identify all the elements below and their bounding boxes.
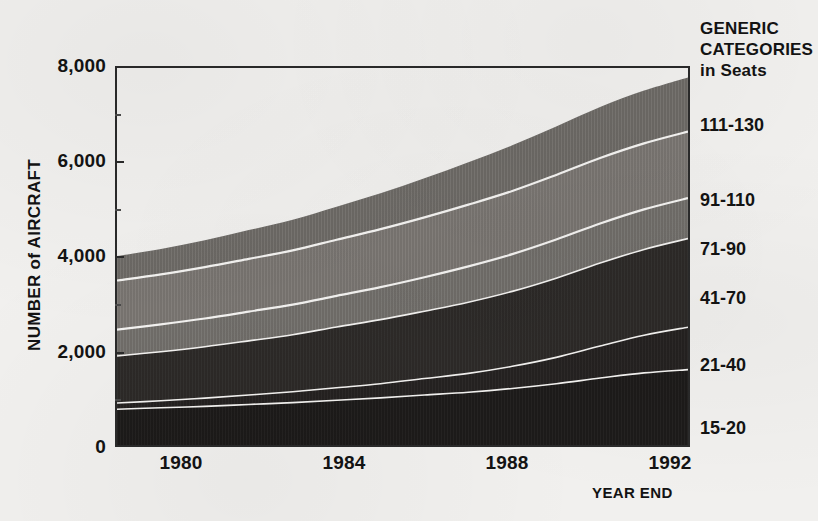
legend-entry-91-110: 91-110 — [700, 190, 755, 211]
y-axis-title: NUMBER of AIRCRAFT — [25, 125, 45, 385]
legend-entry-41-70: 41-70 — [700, 288, 746, 309]
legend-entry-111-130: 111-130 — [700, 115, 764, 136]
legend-entry-15-20: 15-20 — [700, 418, 746, 439]
band-texture — [117, 77, 688, 445]
x-axis-title: YEAR END — [592, 484, 673, 501]
y-tick-label-6000: 6,000 — [57, 150, 106, 172]
y-tick-mark-5000 — [115, 209, 121, 211]
legend-entries: 111-130 91-110 71-90 41-70 21-40 15-20 — [700, 0, 816, 521]
y-tick-label-2000: 2,000 — [57, 341, 106, 363]
y-tick-mark-1000 — [115, 399, 121, 401]
x-tick-label-1980: 1980 — [159, 452, 202, 474]
y-tick-mark-8000 — [115, 66, 124, 68]
x-tick-label-1988: 1988 — [485, 452, 528, 474]
plot-area — [115, 66, 690, 447]
y-tick-mark-2000 — [115, 352, 124, 354]
y-tick-label-0: 0 — [95, 436, 106, 458]
y-tick-mark-7000 — [115, 114, 121, 116]
legend-entry-71-90: 71-90 — [700, 239, 746, 260]
y-tick-mark-3000 — [115, 304, 121, 306]
legend-entry-21-40: 21-40 — [700, 355, 746, 376]
chart-page: 8,000 6,000 4,000 2,000 0 NUMBER of AIRC… — [0, 0, 818, 521]
y-tick-label-8000: 8,000 — [57, 55, 106, 77]
y-tick-label-4000: 4,000 — [57, 245, 106, 267]
y-tick-mark-6000 — [115, 161, 124, 163]
x-tick-label-1984: 1984 — [322, 452, 365, 474]
y-tick-mark-4000 — [115, 256, 124, 258]
x-tick-label-1992: 1992 — [648, 452, 691, 474]
stacked-area-chart — [117, 68, 688, 445]
